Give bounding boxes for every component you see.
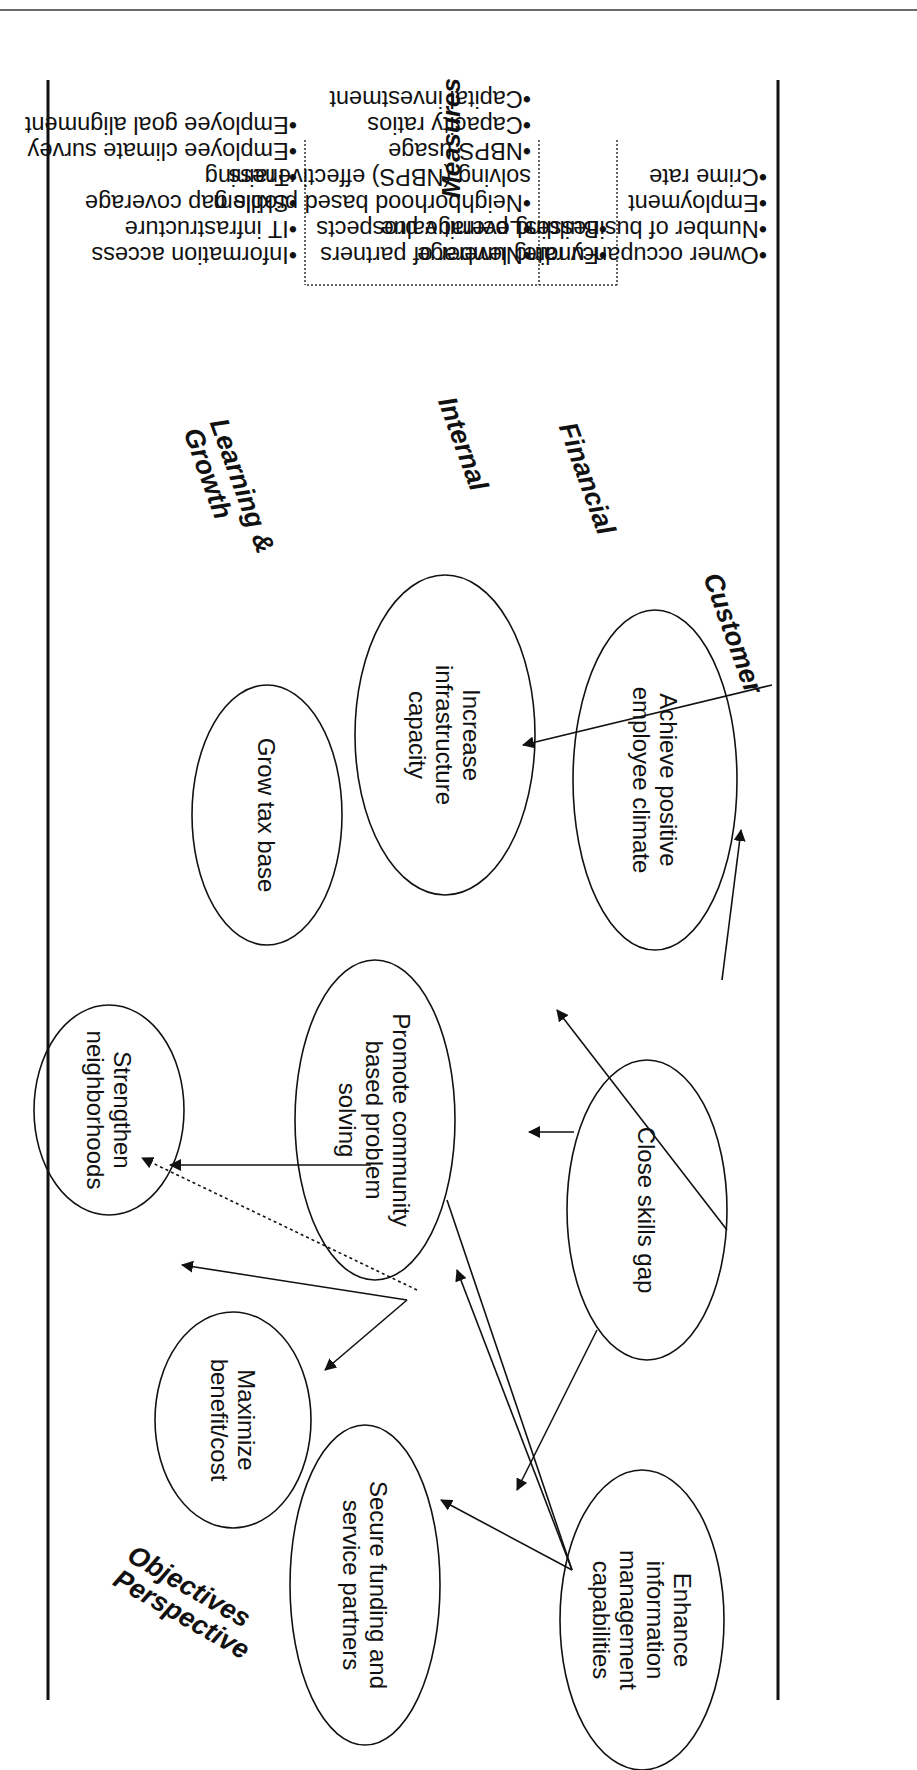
measure-item: Information access [25, 242, 297, 268]
measure-item: Employment [524, 190, 767, 216]
measure-item: Employee goal alignment [25, 112, 297, 138]
objective-strengthen-neighborhoods: Strengthen neighborhoods [34, 1005, 184, 1215]
measure-item: Capital investment [201, 86, 531, 112]
learning-growth-measures-list: Information access IT infrastructure Ski… [25, 112, 297, 268]
objective-secure-funding-partners: Secure funding and service partners [290, 1425, 440, 1745]
measure-item: Training [25, 164, 297, 190]
objective-achieve-positive-employee-climate: Achieve positive employee climate [573, 610, 737, 950]
objective-promote-community-problem-solving: Promote community based problem solving [295, 960, 455, 1280]
measure-item: Crime rate [524, 164, 767, 190]
objective-increase-infrastructure-capacity: Increase infrastructure capacity [355, 575, 535, 895]
objective-maximize-benefit-cost: Maximize benefit/cost [155, 1312, 311, 1528]
objective-grow-tax-base: Grow tax base [192, 685, 342, 945]
objective-close-skills-gap: Close skills gap [567, 1060, 727, 1360]
measure-item: Employee climate survey [25, 138, 297, 164]
measure-item: Skills gap coverage [25, 190, 297, 216]
measure-item: IT infrastructure [25, 216, 297, 242]
objective-enhance-information-management: Enhance information management capabilit… [560, 1470, 724, 1770]
strategy-map-diagram: Measures Customer Financial Internal Lea… [0, 0, 917, 1770]
